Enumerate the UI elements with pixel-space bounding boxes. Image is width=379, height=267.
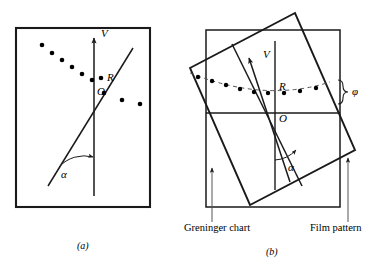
panel-a xyxy=(16,28,150,207)
panel-a-label-V: V xyxy=(101,27,108,39)
panel-b-label-phi: φ xyxy=(352,85,358,97)
panel-b-label-V: V xyxy=(263,48,270,60)
panel-b-spots xyxy=(196,75,318,95)
panel-a-frame xyxy=(16,28,150,207)
panel-b-greninger-chart-frame xyxy=(206,30,340,207)
panel-b-film-pattern-frame xyxy=(190,13,355,205)
panel-b xyxy=(190,13,355,222)
caption-panel-b: (b) xyxy=(266,246,278,257)
panel-a-spots-right xyxy=(102,91,143,107)
panel-a-label-R: R xyxy=(107,71,114,83)
panel-b-label-R: R xyxy=(279,80,286,92)
annotation-greninger-chart: Greninger chart xyxy=(184,222,250,233)
caption-panel-a: (a) xyxy=(77,240,89,251)
panel-a-label-O: O xyxy=(97,85,105,97)
panel-a-alpha-arc xyxy=(59,156,93,167)
figure-container: V R O α V R O α φ Greninger chart Film p… xyxy=(0,0,379,267)
panel-a-label-alpha: α xyxy=(61,168,67,180)
panel-a-spots-upper-left xyxy=(40,43,95,83)
panel-a-spot-R xyxy=(99,76,104,81)
panel-b-label-O: O xyxy=(279,112,287,124)
annotation-film-pattern: Film pattern xyxy=(310,222,362,233)
panel-b-label-alpha: α xyxy=(288,161,294,173)
